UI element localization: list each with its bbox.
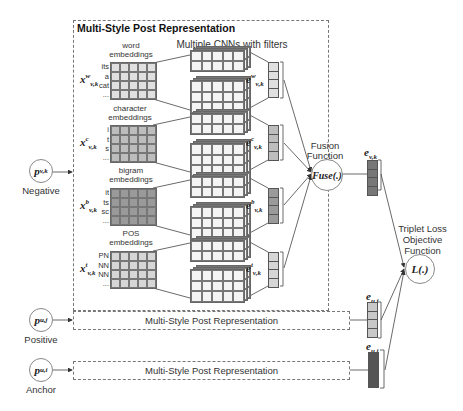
row-label: PN [93, 251, 109, 260]
collapsed-representation-box-anchor: Multi-Style Post Representation [73, 361, 350, 380]
fused-vector-symbol: ev,k [364, 146, 377, 161]
embedding-label: embeddings [100, 113, 160, 122]
row-label: cat [93, 81, 109, 90]
output-symbol-character: ecv,k [246, 135, 262, 151]
row-label: ... [93, 90, 109, 99]
row-label: its [93, 62, 109, 71]
output-symbol-pos: etv,k [246, 261, 261, 277]
loss-function-node: L(.) [405, 254, 435, 284]
cnn-filter-stack [190, 269, 244, 302]
embedding-matrix [110, 125, 157, 163]
loss-label: Triplet Loss [390, 224, 455, 234]
embedding-label: embeddings [106, 50, 156, 59]
row-label: ... [93, 216, 109, 225]
output-symbol-bigram: ebv,k [246, 198, 263, 214]
input-label-negative: Negative [15, 186, 67, 195]
embedding-label: embeddings [106, 175, 156, 184]
loss-label: Objective [390, 235, 455, 245]
embedding-label: bigram [106, 166, 156, 175]
main-box-title: Multi-Style Post Representation [77, 22, 235, 34]
embedding-matrix [110, 251, 157, 289]
embedding-label: POS [106, 229, 156, 238]
row-label: i [93, 125, 109, 134]
input-node-negative: pv,k [29, 159, 53, 183]
collapsed-box-label: Multi-Style Post Representation [74, 315, 349, 326]
row-label: ts [93, 198, 109, 207]
collapsed-representation-box-positive: Multi-Style Post Representation [73, 311, 350, 330]
row-label: NN [93, 261, 109, 270]
cnn-filter-stack [190, 176, 244, 198]
row-label: sc [93, 207, 109, 216]
input-node-anchor: pu,i [29, 358, 53, 382]
output-symbol-word: ewv,k [246, 72, 264, 88]
positive-vector [367, 302, 378, 338]
cnn-filter-stack [190, 50, 244, 72]
output-vector-word [268, 62, 279, 98]
embedding-matrix [110, 188, 157, 226]
embedding-label: embeddings [106, 238, 156, 247]
row-label: s [93, 144, 109, 153]
output-vector-pos [268, 252, 279, 288]
output-vector-character [268, 125, 279, 161]
cnn-filter-stack [190, 113, 244, 135]
collapsed-box-label: Multi-Style Post Representation [74, 365, 349, 376]
row-label: t [93, 135, 109, 144]
embedding-label: word [106, 41, 156, 50]
row-label: ... [93, 153, 109, 162]
row-label: it [93, 188, 109, 197]
anchor-vector [368, 352, 379, 388]
fuse-function-node: Fuse(.) [311, 159, 343, 191]
output-vector-bigram [268, 188, 279, 224]
cnn-filter-stack [190, 206, 244, 239]
input-label-anchor: Anchor [15, 385, 67, 394]
cnn-filter-stack [190, 240, 244, 262]
row-label: a [93, 72, 109, 81]
row-label: NN [93, 270, 109, 279]
row-label: ... [93, 279, 109, 288]
embedding-matrix [110, 62, 157, 100]
input-label-positive: Positive [15, 335, 67, 344]
embedding-label: character [100, 104, 160, 113]
input-node-positive: pu,j [29, 308, 53, 332]
fused-vector [367, 160, 378, 196]
